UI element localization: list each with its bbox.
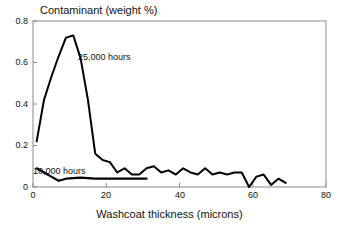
y-axis-ticks [33,21,37,187]
y-tick-label: 0.2 [2,140,28,150]
y-tick-label: 0.4 [2,99,28,109]
y-tick-label: 0.8 [2,16,28,26]
x-tick-label: 20 [91,190,121,200]
y-tick-label: 0.6 [2,57,28,67]
x-axis-ticks [33,183,326,187]
x-tick-label: 80 [311,190,339,200]
x-axis-title: Washcoat thickness (microns) [0,208,339,220]
annotation-25000-hours: 25,000 hours [78,52,131,62]
x-tick-label: 0 [18,190,48,200]
series-layer [37,36,286,187]
x-tick-label: 40 [165,190,195,200]
x-tick-label: 60 [238,190,268,200]
series-line-1 [37,36,286,187]
annotation-10000-hours: 10,000 hours [33,166,86,176]
chart-figure: Contaminant (weight %) 0 0.2 0.4 0.6 0.8… [0,0,339,229]
